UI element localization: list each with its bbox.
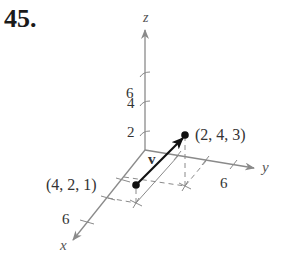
3d-vector-diagram: z 6 4 4 2 y 6 x 6 v	[0, 0, 306, 254]
y-tick-label-6: 6	[220, 175, 228, 191]
x-axis	[73, 150, 145, 240]
terminal-point-label: (2, 4, 3)	[195, 126, 246, 144]
terminal-point-dot	[181, 131, 189, 139]
initial-point-dot	[132, 181, 140, 189]
vector-label: v	[148, 151, 156, 167]
vector-v	[136, 138, 183, 185]
z-axis-label: z	[142, 10, 149, 25]
x-tick-2	[116, 178, 130, 182]
initial-point-label: (4, 2, 1)	[46, 176, 97, 194]
z-tick-label-4-visible: 4	[127, 95, 135, 111]
z-tick-label-2: 2	[127, 124, 135, 140]
x-tick-label-6: 6	[62, 211, 70, 227]
x-axis-label: x	[59, 237, 67, 253]
y-axis-label: y	[260, 159, 269, 175]
z-axis	[140, 30, 150, 150]
projection-guides	[108, 138, 206, 203]
